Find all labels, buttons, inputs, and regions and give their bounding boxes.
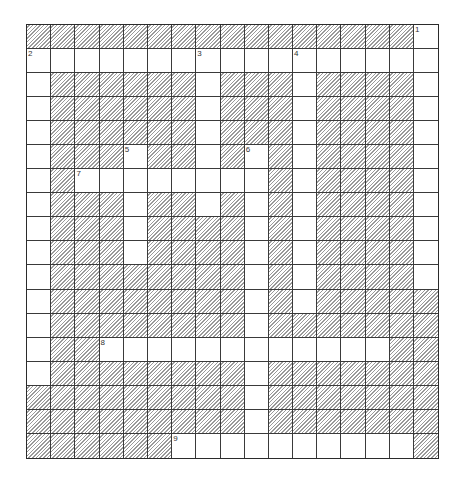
answer-cell[interactable] (221, 169, 245, 193)
answer-cell[interactable] (100, 49, 124, 73)
answer-cell[interactable] (196, 73, 220, 97)
answer-cell[interactable] (196, 193, 220, 217)
answer-cell[interactable] (245, 193, 269, 217)
answer-cell[interactable] (341, 434, 365, 458)
answer-cell[interactable] (196, 169, 220, 193)
answer-cell[interactable]: 7 (75, 169, 99, 193)
answer-cell[interactable] (414, 265, 438, 289)
answer-cell[interactable]: 3 (196, 49, 220, 73)
answer-cell[interactable] (75, 49, 99, 73)
answer-cell[interactable] (245, 265, 269, 289)
answer-cell[interactable] (27, 97, 51, 121)
answer-cell[interactable] (196, 145, 220, 169)
answer-cell[interactable] (172, 338, 196, 362)
answer-cell[interactable] (293, 241, 317, 265)
answer-cell[interactable] (317, 338, 341, 362)
answer-cell[interactable] (245, 338, 269, 362)
answer-cell[interactable] (27, 338, 51, 362)
answer-cell[interactable]: 9 (172, 434, 196, 458)
answer-cell[interactable] (293, 193, 317, 217)
answer-cell[interactable] (414, 193, 438, 217)
answer-cell[interactable] (293, 97, 317, 121)
answer-cell[interactable] (293, 217, 317, 241)
answer-cell[interactable] (245, 49, 269, 73)
answer-cell[interactable] (341, 49, 365, 73)
answer-cell[interactable]: 4 (293, 49, 317, 73)
answer-cell[interactable] (124, 169, 148, 193)
answer-cell[interactable] (414, 145, 438, 169)
answer-cell[interactable] (124, 193, 148, 217)
answer-cell[interactable] (148, 338, 172, 362)
answer-cell[interactable] (245, 314, 269, 338)
answer-cell[interactable]: 5 (124, 145, 148, 169)
answer-cell[interactable] (221, 49, 245, 73)
answer-cell[interactable] (414, 241, 438, 265)
answer-cell[interactable] (172, 169, 196, 193)
answer-cell[interactable] (172, 49, 196, 73)
answer-cell[interactable] (27, 362, 51, 386)
answer-cell[interactable] (124, 49, 148, 73)
answer-cell[interactable] (390, 434, 414, 458)
answer-cell[interactable] (341, 338, 365, 362)
answer-cell[interactable] (27, 145, 51, 169)
answer-cell[interactable] (414, 217, 438, 241)
answer-cell[interactable] (196, 121, 220, 145)
answer-cell[interactable] (293, 169, 317, 193)
blocked-cell (341, 73, 365, 97)
answer-cell[interactable] (366, 338, 390, 362)
answer-cell[interactable] (269, 338, 293, 362)
answer-cell[interactable] (414, 121, 438, 145)
answer-cell[interactable] (293, 338, 317, 362)
answer-cell[interactable] (293, 145, 317, 169)
answer-cell[interactable] (245, 241, 269, 265)
answer-cell[interactable] (27, 121, 51, 145)
answer-cell[interactable] (366, 434, 390, 458)
answer-cell[interactable] (51, 49, 75, 73)
answer-cell[interactable] (27, 193, 51, 217)
answer-cell[interactable] (245, 434, 269, 458)
answer-cell[interactable] (245, 217, 269, 241)
answer-cell[interactable] (27, 169, 51, 193)
answer-cell[interactable] (27, 217, 51, 241)
answer-cell[interactable] (293, 121, 317, 145)
answer-cell[interactable] (245, 386, 269, 410)
answer-cell[interactable] (366, 49, 390, 73)
answer-cell[interactable]: 2 (27, 49, 51, 73)
answer-cell[interactable] (124, 217, 148, 241)
answer-cell[interactable] (293, 73, 317, 97)
answer-cell[interactable] (269, 434, 293, 458)
answer-cell[interactable] (414, 169, 438, 193)
answer-cell[interactable] (196, 434, 220, 458)
answer-cell[interactable] (414, 73, 438, 97)
answer-cell[interactable] (196, 97, 220, 121)
answer-cell[interactable] (124, 241, 148, 265)
answer-cell[interactable] (245, 362, 269, 386)
answer-cell[interactable] (414, 97, 438, 121)
answer-cell[interactable] (100, 169, 124, 193)
answer-cell[interactable] (293, 434, 317, 458)
answer-cell[interactable] (148, 49, 172, 73)
answer-cell[interactable] (124, 338, 148, 362)
answer-cell[interactable] (27, 314, 51, 338)
answer-cell[interactable] (245, 169, 269, 193)
answer-cell[interactable] (414, 49, 438, 73)
answer-cell[interactable] (27, 73, 51, 97)
answer-cell[interactable]: 6 (245, 145, 269, 169)
answer-cell[interactable] (293, 290, 317, 314)
answer-cell[interactable]: 8 (100, 338, 124, 362)
answer-cell[interactable] (317, 434, 341, 458)
answer-cell[interactable] (196, 338, 220, 362)
answer-cell[interactable]: 1 (414, 25, 438, 49)
answer-cell[interactable] (245, 410, 269, 434)
answer-cell[interactable] (269, 49, 293, 73)
answer-cell[interactable] (221, 434, 245, 458)
answer-cell[interactable] (293, 265, 317, 289)
answer-cell[interactable] (221, 338, 245, 362)
answer-cell[interactable] (27, 265, 51, 289)
answer-cell[interactable] (245, 290, 269, 314)
answer-cell[interactable] (148, 169, 172, 193)
answer-cell[interactable] (27, 241, 51, 265)
answer-cell[interactable] (27, 290, 51, 314)
answer-cell[interactable] (317, 49, 341, 73)
answer-cell[interactable] (390, 49, 414, 73)
